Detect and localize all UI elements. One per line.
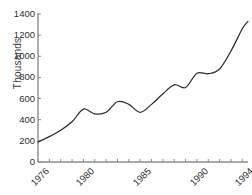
plot-area (0, 0, 252, 195)
line-chart: Thousands 0200400600800100012001400 1976… (0, 0, 252, 195)
axis-lines (38, 13, 248, 162)
data-series-line (38, 21, 248, 142)
